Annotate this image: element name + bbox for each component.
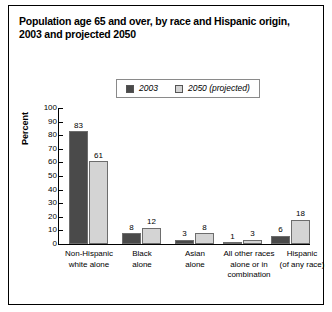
- x-axis-category-label-line: white alone: [54, 260, 124, 271]
- bar: [243, 240, 262, 244]
- x-axis-category-label: Hispanic(of any race): [271, 249, 332, 270]
- y-axis-tick-mark: [59, 122, 63, 123]
- bar-value-label: 12: [141, 218, 162, 226]
- y-axis-tick-label: 50: [29, 172, 57, 180]
- x-axis-category-label-line: Hispanic: [271, 249, 332, 260]
- x-axis-line: [58, 244, 310, 245]
- y-axis-tick-label: 90: [29, 118, 57, 126]
- bar-value-label: 18: [290, 210, 311, 218]
- y-axis-tick-label: 0: [29, 240, 57, 248]
- bar-value-label: 3: [242, 230, 263, 238]
- x-axis-category-label-line: combination: [218, 270, 280, 281]
- plot-area: Percent 0102030405060708090100 836181238…: [9, 6, 325, 306]
- bar-value-label: 83: [68, 122, 89, 130]
- y-axis-tick-mark: [59, 149, 63, 150]
- figure-frame: Population age 65 and over, by race and …: [8, 5, 324, 305]
- y-axis-tick-mark: [59, 217, 63, 218]
- x-axis-category-label: Blackalone: [117, 249, 167, 270]
- bar-value-label: 3: [174, 230, 195, 238]
- bar: [89, 161, 108, 244]
- y-axis-tick-mark: [59, 108, 63, 109]
- bar-value-label: 6: [270, 226, 291, 234]
- x-axis-category-label: Asianalone: [170, 249, 220, 270]
- y-axis-tick-mark: [59, 176, 63, 177]
- y-axis-tick-label: 80: [29, 131, 57, 139]
- x-axis-category-label: Non-Hispanicwhite alone: [54, 249, 124, 270]
- x-axis-category-label-line: Black: [117, 249, 167, 260]
- x-axis-category-label-line: Non-Hispanic: [54, 249, 124, 260]
- x-axis-category-label-line: alone: [117, 260, 167, 271]
- bar: [271, 236, 290, 244]
- bar: [69, 131, 88, 244]
- bar-group: 8361: [69, 108, 109, 244]
- bar: [122, 233, 141, 244]
- x-axis-category-label-line: (of any race): [271, 260, 332, 271]
- bar-value-label: 8: [194, 224, 215, 232]
- y-axis-tick-label: 40: [29, 186, 57, 194]
- bar: [175, 240, 194, 244]
- y-axis-tick-mark: [59, 203, 63, 204]
- y-axis-tick-mark: [59, 135, 63, 136]
- bar-value-label: 8: [121, 224, 142, 232]
- y-axis-tick-label: 70: [29, 145, 57, 153]
- bar: [291, 220, 310, 244]
- bar-group: 38: [175, 108, 215, 244]
- bar-value-label: 61: [88, 152, 109, 160]
- y-axis-tick-labels: 0102030405060708090100: [29, 108, 57, 244]
- bar-group: 13: [223, 108, 263, 244]
- bar: [195, 233, 214, 244]
- bar-group: 618: [271, 108, 311, 244]
- bar: [142, 228, 161, 244]
- y-axis-tick-mark: [59, 230, 63, 231]
- bar: [223, 242, 242, 244]
- y-axis-tick-label: 60: [29, 158, 57, 166]
- x-axis-category-labels: Non-Hispanicwhite aloneBlackaloneAsianal…: [59, 249, 310, 293]
- bar-value-label: 1: [222, 233, 243, 241]
- bar-group: 812: [122, 108, 162, 244]
- y-axis-tick-label: 100: [29, 104, 57, 112]
- bars-layer: 83618123813618: [59, 108, 310, 244]
- y-axis-tick-label: 30: [29, 199, 57, 207]
- y-axis-tick-label: 10: [29, 226, 57, 234]
- x-axis-category-label-line: Asian: [170, 249, 220, 260]
- y-axis-tick-mark: [59, 190, 63, 191]
- y-axis-tick-mark: [59, 244, 63, 245]
- x-axis-category-label-line: alone: [170, 260, 220, 271]
- y-axis-tick-mark: [59, 162, 63, 163]
- y-axis-tick-label: 20: [29, 213, 57, 221]
